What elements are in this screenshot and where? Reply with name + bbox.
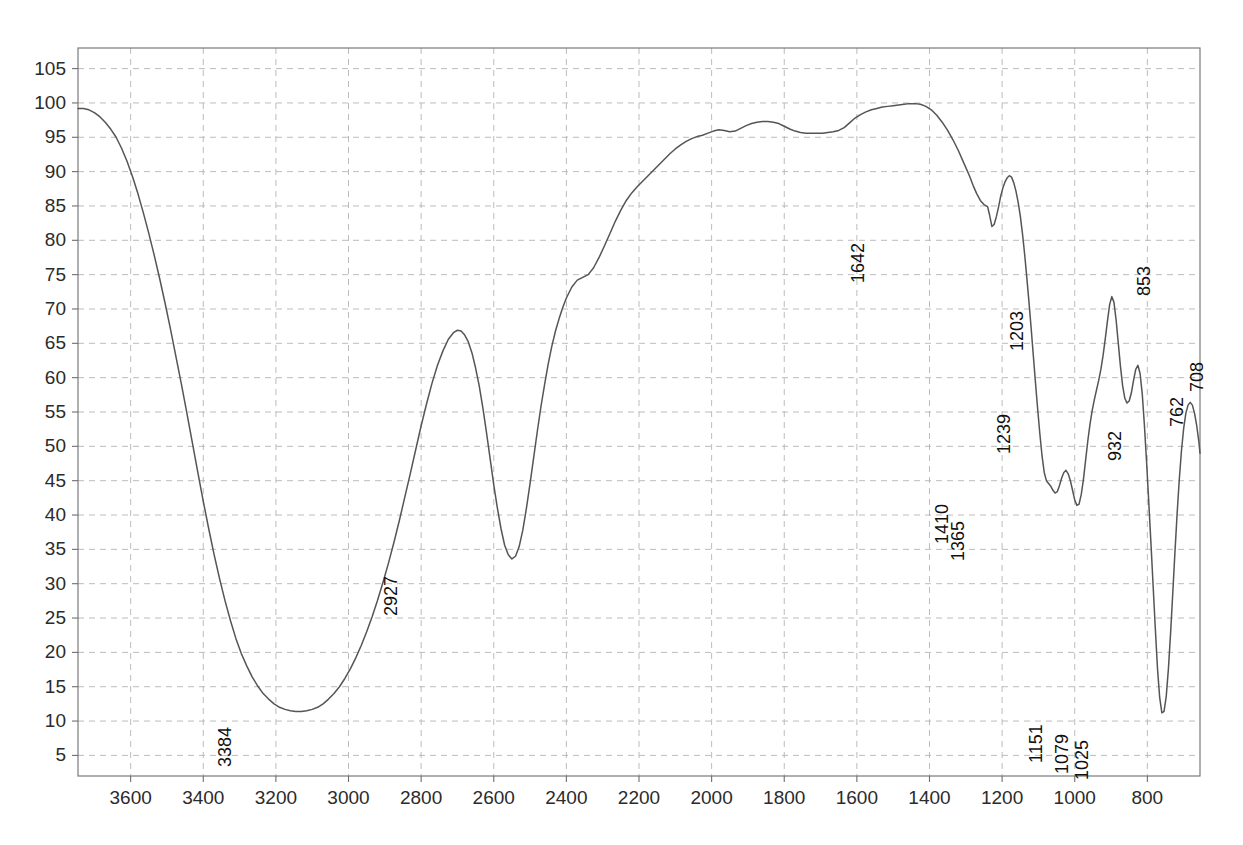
tick-marks xyxy=(72,69,1147,782)
x-tick-label: 1200 xyxy=(972,788,1032,807)
peak-label: 1642 xyxy=(849,243,867,283)
peak-label: 1079 xyxy=(1053,734,1071,774)
x-tick-label: 2000 xyxy=(682,788,742,807)
peak-label: 1203 xyxy=(1008,311,1026,351)
y-tick-label: 60 xyxy=(20,368,66,387)
peak-label: 932 xyxy=(1106,431,1124,461)
peak-label: 3384 xyxy=(216,727,234,767)
y-tick-label: 10 xyxy=(20,711,66,730)
y-tick-label: 95 xyxy=(20,127,66,146)
peak-label: 708 xyxy=(1188,362,1206,392)
x-tick-label: 3600 xyxy=(101,788,161,807)
y-tick-label: 50 xyxy=(20,436,66,455)
y-tick-label: 55 xyxy=(20,402,66,421)
y-tick-label: 100 xyxy=(20,93,66,112)
y-tick-label: 45 xyxy=(20,471,66,490)
x-tick-label: 3000 xyxy=(319,788,379,807)
grid-lines xyxy=(78,48,1200,776)
x-tick-label: 2200 xyxy=(609,788,669,807)
y-tick-label: 35 xyxy=(20,539,66,558)
x-tick-label: 2600 xyxy=(464,788,524,807)
y-tick-label: 20 xyxy=(20,642,66,661)
x-tick-label: 3200 xyxy=(246,788,306,807)
y-tick-label: 15 xyxy=(20,677,66,696)
x-tick-label: 1000 xyxy=(1045,788,1105,807)
peak-label: 762 xyxy=(1168,397,1186,427)
x-tick-label: 1600 xyxy=(827,788,887,807)
y-tick-label: 40 xyxy=(20,505,66,524)
y-tick-label: 70 xyxy=(20,299,66,318)
y-tick-label: 75 xyxy=(20,265,66,284)
x-tick-label: 1800 xyxy=(754,788,814,807)
x-tick-label: 3400 xyxy=(173,788,233,807)
y-tick-label: 85 xyxy=(20,196,66,215)
peak-label: 853 xyxy=(1135,266,1153,296)
y-tick-label: 30 xyxy=(20,574,66,593)
y-tick-label: 80 xyxy=(20,230,66,249)
peak-label: 1365 xyxy=(949,521,967,561)
spectrum-plot xyxy=(0,0,1243,845)
x-tick-label: 800 xyxy=(1117,788,1177,807)
peak-label: 1239 xyxy=(995,414,1013,454)
y-tick-label: 105 xyxy=(20,59,66,78)
y-tick-label: 65 xyxy=(20,333,66,352)
x-tick-label: 2800 xyxy=(391,788,451,807)
y-tick-label: 25 xyxy=(20,608,66,627)
ftir-spectrum-figure: 5101520253035404550556065707580859095100… xyxy=(0,0,1243,845)
y-tick-label: 5 xyxy=(20,745,66,764)
x-tick-label: 1400 xyxy=(899,788,959,807)
peak-label: 1025 xyxy=(1073,740,1091,780)
x-tick-label: 2400 xyxy=(536,788,596,807)
peak-label: 2927 xyxy=(382,576,400,616)
y-tick-label: 90 xyxy=(20,162,66,181)
peak-label: 1151 xyxy=(1027,725,1045,764)
